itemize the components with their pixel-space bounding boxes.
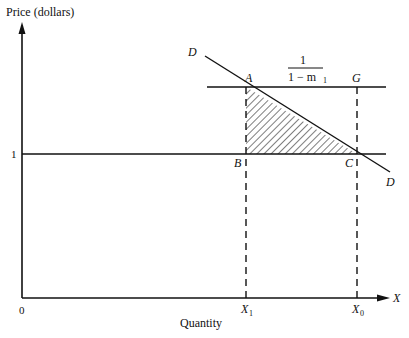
x0-label: X (351, 302, 360, 316)
diagram-canvas: Price (dollars) Quantity X 0 1 D D A G B… (0, 0, 409, 338)
x1-sub: 1 (249, 309, 253, 318)
price-one-label: 1 (11, 148, 17, 160)
point-b-label: B (234, 156, 242, 170)
y-axis-label: Price (dollars) (6, 5, 74, 19)
point-a-label: A (244, 71, 253, 85)
fraction-denominator-sub: 1 (323, 76, 327, 85)
fraction-denominator: 1 − m (288, 70, 317, 84)
x-axis-label: Quantity (180, 316, 222, 330)
y-axis-arrow-icon (19, 22, 26, 34)
x-axis-arrow-icon (377, 295, 390, 302)
shaded-triangle-abc (246, 87, 357, 154)
origin-label: 0 (19, 304, 25, 316)
demand-label-bottom: D (385, 175, 395, 189)
x0-sub: 0 (360, 309, 364, 318)
x-axis-end-label: X (392, 291, 401, 305)
x1-label: X (240, 302, 249, 316)
demand-label-top: D (187, 45, 197, 59)
point-g-label: G (352, 71, 361, 85)
point-c-label: C (345, 156, 354, 170)
fraction-numerator: 1 (300, 53, 306, 67)
